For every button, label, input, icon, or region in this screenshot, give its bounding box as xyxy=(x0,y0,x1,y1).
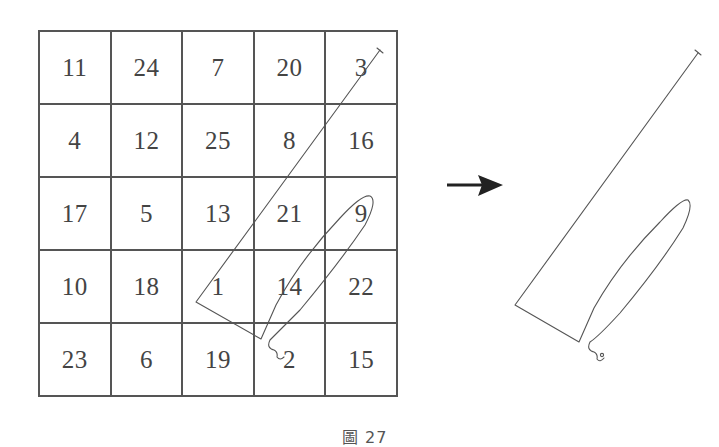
grid-cell: 20 xyxy=(254,31,326,104)
grid-cell: 17 xyxy=(39,177,111,250)
grid-cell: 16 xyxy=(325,104,397,177)
grid-cell: 8 xyxy=(254,104,326,177)
grid-cell: 13 xyxy=(182,177,254,250)
grid-cell: 10 xyxy=(39,250,111,323)
grid-cell: 2 xyxy=(254,323,326,396)
grid-cell: 23 xyxy=(39,323,111,396)
grid-cell: 9 xyxy=(325,177,397,250)
grid-cell: 14 xyxy=(254,250,326,323)
grid-cell: 22 xyxy=(325,250,397,323)
arrow-right-icon xyxy=(447,175,503,196)
grid-cell: 4 xyxy=(39,104,111,177)
grid-cell: 18 xyxy=(111,250,183,323)
grid-cell: 12 xyxy=(111,104,183,177)
grid-cell: 7 xyxy=(182,31,254,104)
grid-cell: 3 xyxy=(325,31,397,104)
grid-cell: 6 xyxy=(111,323,183,396)
magic-square-grid: 11 24 7 20 3 4 12 25 8 16 17 5 13 21 9 1… xyxy=(38,30,398,397)
grid-cell: 11 xyxy=(39,31,111,104)
grid-cell: 25 xyxy=(182,104,254,177)
grid-cell: 15 xyxy=(325,323,397,396)
extracted-shape xyxy=(515,50,701,361)
grid-cell: 5 xyxy=(111,177,183,250)
grid-cell: 24 xyxy=(111,31,183,104)
figure-caption: 圖 27 xyxy=(342,424,387,447)
grid-cell: 21 xyxy=(254,177,326,250)
grid-cell: 1 xyxy=(182,250,254,323)
grid-cell: 19 xyxy=(182,323,254,396)
